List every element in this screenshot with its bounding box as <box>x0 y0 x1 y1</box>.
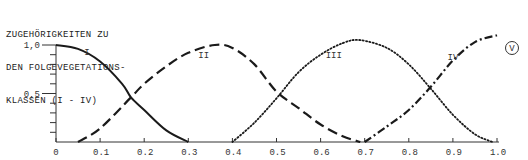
curve-ii <box>78 45 360 142</box>
x-tick-label: 0.1 <box>93 148 109 158</box>
x-tick-label: 0.9 <box>446 148 462 158</box>
y-tick-label: 1,0 <box>24 41 40 51</box>
x-tick-label: 0.6 <box>313 148 329 158</box>
x-tick-label: 0.4 <box>225 148 241 158</box>
x-tick-label: 0.2 <box>137 148 153 158</box>
curve-label-iv: IV <box>447 53 458 63</box>
curve-labels: IIIIIIIVV <box>84 42 518 63</box>
x-tick-label: 1.0 <box>490 148 506 158</box>
x-tick-label: 0.3 <box>181 148 197 158</box>
curve-i <box>56 45 188 142</box>
x-tick-label: 0.7 <box>358 148 374 158</box>
y-tick-label: 0,5 <box>24 90 40 100</box>
x-tick-label: 0.8 <box>402 148 418 158</box>
x-tick-label: 0.5 <box>269 148 285 158</box>
curve-label-i: I <box>84 48 89 58</box>
membership-chart: 1,00,500.10.20.30.40.50.60.70.80.91.0 II… <box>0 0 528 160</box>
curve-label-iii: III <box>326 51 342 61</box>
curves <box>56 35 497 142</box>
x-tick-label: 0 <box>53 148 58 158</box>
curve-label-ii: II <box>198 51 209 61</box>
annotation-v: V <box>509 44 515 54</box>
